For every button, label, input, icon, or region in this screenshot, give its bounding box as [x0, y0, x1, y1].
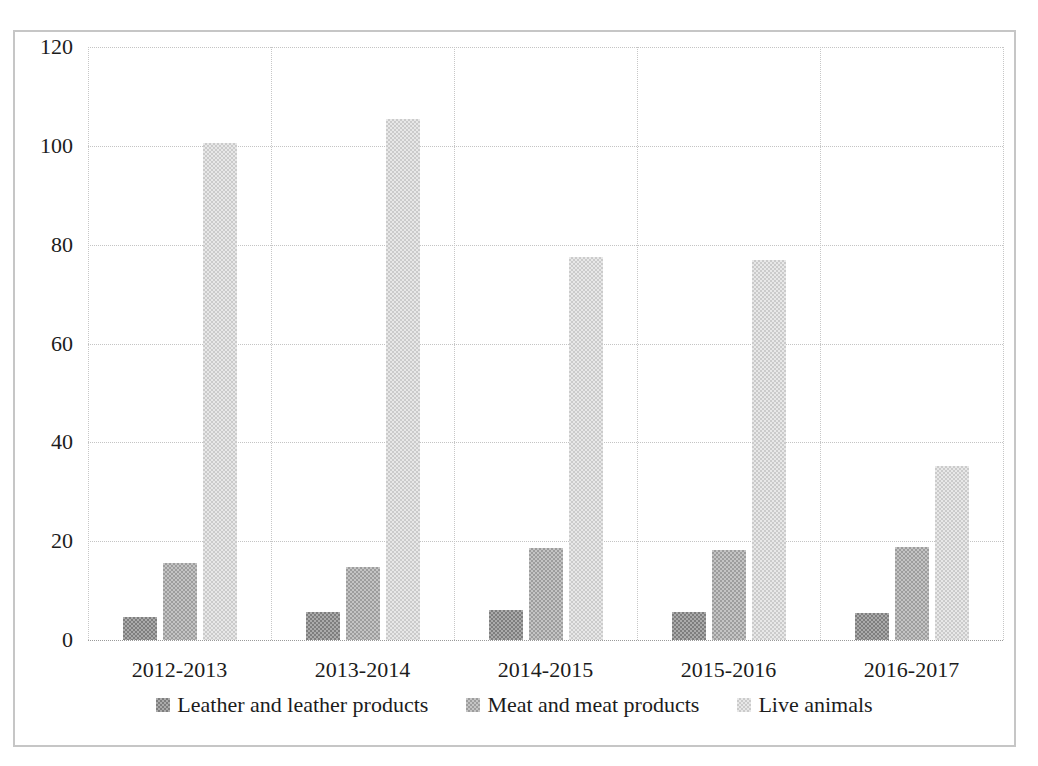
legend-swatch-icon [156, 698, 170, 712]
plot-area [88, 47, 1003, 640]
bar-meat-2016-2017 [895, 547, 929, 640]
bar-leather-2012-2013 [123, 617, 157, 640]
x-axis-line [88, 640, 1003, 641]
bar-meat-2015-2016 [712, 550, 746, 640]
figure-frame: 020406080100120 2012-20132013-20142014-2… [13, 30, 1016, 747]
x-tick-label-2016-2017: 2016-2017 [820, 657, 1003, 683]
bar-live-2013-2014 [386, 119, 420, 640]
bar-live-2015-2016 [752, 260, 786, 641]
legend-swatch-icon [737, 698, 751, 712]
bar-live-2014-2015 [569, 257, 603, 640]
legend-item-meat: Meat and meat products [466, 692, 699, 718]
x-tick-label-2013-2014: 2013-2014 [271, 657, 454, 683]
legend-label: Leather and leather products [177, 692, 428, 718]
gridline-y-120 [88, 47, 1003, 48]
bar-leather-2015-2016 [672, 612, 706, 640]
gridline-x-1 [271, 47, 272, 640]
bar-live-2016-2017 [935, 466, 969, 640]
legend-label: Live animals [758, 692, 872, 718]
y-tick-label-120: 120 [15, 36, 73, 58]
bar-leather-2014-2015 [489, 610, 523, 640]
y-tick-label-40: 40 [15, 431, 73, 453]
x-axis-labels: 2012-20132013-20142014-20152015-20162016… [15, 657, 1014, 685]
bar-meat-2013-2014 [346, 567, 380, 640]
gridline-x-5 [1003, 47, 1004, 640]
legend-swatch-icon [466, 698, 480, 712]
x-tick-label-2012-2013: 2012-2013 [88, 657, 271, 683]
gridline-x-4 [820, 47, 821, 640]
legend-item-leather: Leather and leather products [156, 692, 428, 718]
bar-meat-2012-2013 [163, 563, 197, 640]
x-tick-label-2015-2016: 2015-2016 [637, 657, 820, 683]
y-tick-label-80: 80 [15, 234, 73, 256]
gridline-x-3 [637, 47, 638, 640]
legend-item-live: Live animals [737, 692, 872, 718]
y-tick-label-20: 20 [15, 530, 73, 552]
legend: Leather and leather productsMeat and mea… [15, 692, 1014, 718]
y-tick-label-60: 60 [15, 333, 73, 355]
x-tick-label-2014-2015: 2014-2015 [454, 657, 637, 683]
y-axis-line [88, 47, 89, 640]
y-tick-label-100: 100 [15, 135, 73, 157]
bar-leather-2013-2014 [306, 612, 340, 640]
gridline-x-2 [454, 47, 455, 640]
bar-meat-2014-2015 [529, 548, 563, 640]
legend-label: Meat and meat products [487, 692, 699, 718]
bar-live-2012-2013 [203, 143, 237, 640]
bar-leather-2016-2017 [855, 613, 889, 640]
y-tick-label-0: 0 [15, 629, 73, 651]
